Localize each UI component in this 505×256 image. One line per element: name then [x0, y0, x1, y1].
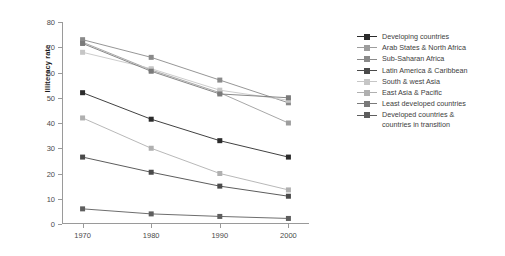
data-point-marker [286, 187, 291, 192]
legend-swatch-icon [357, 88, 377, 98]
data-point-marker [286, 95, 291, 100]
x-tick [288, 224, 289, 228]
data-point-marker [286, 194, 291, 199]
data-point-marker [217, 171, 222, 176]
data-point-marker [80, 50, 85, 55]
series-canvas [62, 22, 309, 224]
legend-label: East Asia & Pacific [382, 88, 442, 98]
legend-item[interactable]: Least developed countries [357, 99, 503, 109]
series-4 [80, 50, 291, 103]
plot-area: 01020304050607080 1970198019902000 [62, 22, 309, 224]
legend-label: South & west Asia [382, 77, 440, 87]
data-point-marker [217, 78, 222, 83]
data-point-marker [217, 184, 222, 189]
y-tick-label: 10 [47, 194, 55, 203]
data-point-marker [217, 138, 222, 143]
data-point-marker [286, 216, 291, 221]
y-tick-label: 60 [47, 68, 55, 77]
y-tick-label: 20 [47, 169, 55, 178]
legend-item[interactable]: South & west Asia [357, 77, 503, 87]
x-tick-label: 1990 [211, 231, 228, 240]
y-tick-label: 70 [47, 43, 55, 52]
series-6 [80, 41, 291, 100]
legend-item[interactable]: Developing countries [357, 32, 503, 42]
y-tick-label: 40 [47, 119, 55, 128]
chart-figure: Illiteracy rate 01020304050607080 197019… [0, 0, 505, 256]
data-point-marker [80, 206, 85, 211]
data-point-marker [149, 117, 154, 122]
legend-label: Latin America & Caribbean [382, 66, 468, 76]
legend-item[interactable]: East Asia & Pacific [357, 88, 503, 98]
data-point-marker [217, 91, 222, 96]
legend-label: Developed countries & countries in trans… [382, 110, 454, 129]
data-point-marker [80, 155, 85, 160]
series-line [83, 43, 289, 97]
legend-swatch-icon [357, 32, 377, 42]
data-point-marker [149, 170, 154, 175]
series-line [83, 52, 289, 100]
series-line [83, 209, 289, 219]
x-tick [83, 224, 84, 228]
legend-label: Arab States & North Africa [382, 43, 466, 53]
x-tick [220, 224, 221, 228]
series-0 [80, 90, 291, 159]
data-point-marker [80, 41, 85, 46]
series-7 [80, 206, 291, 221]
series-line [83, 40, 289, 103]
legend-label: Least developed countries [382, 99, 466, 109]
data-point-marker [286, 155, 291, 160]
x-tick-label: 1970 [74, 231, 91, 240]
series-line [83, 93, 289, 157]
legend-item[interactable]: Latin America & Caribbean [357, 66, 503, 76]
legend-swatch-icon [357, 110, 377, 120]
data-point-marker [149, 69, 154, 74]
y-tick-label: 80 [47, 18, 55, 27]
y-tick-label: 0 [51, 220, 55, 229]
legend-item[interactable]: Developed countries & countries in trans… [357, 110, 503, 129]
legend-swatch-icon [357, 54, 377, 64]
legend-swatch-icon [357, 99, 377, 109]
x-tick-label: 1980 [143, 231, 160, 240]
data-point-marker [80, 115, 85, 120]
legend-label: Sub-Saharan Africa [382, 54, 444, 64]
series-5 [80, 115, 291, 192]
x-tick [151, 224, 152, 228]
data-point-marker [149, 146, 154, 151]
legend-swatch-icon [357, 66, 377, 76]
data-point-marker [217, 214, 222, 219]
y-tick-label: 50 [47, 93, 55, 102]
legend-item[interactable]: Arab States & North Africa [357, 43, 503, 53]
series-line [83, 157, 289, 196]
legend-swatch-icon [357, 77, 377, 87]
series-2 [80, 37, 291, 105]
legend-item[interactable]: Sub-Saharan Africa [357, 54, 503, 64]
x-tick-label: 2000 [280, 231, 297, 240]
legend: Developing countriesArab States & North … [357, 32, 503, 131]
legend-label: Developing countries [382, 32, 449, 42]
data-point-marker [149, 55, 154, 60]
y-tick [58, 224, 62, 225]
data-point-marker [80, 90, 85, 95]
data-point-marker [286, 121, 291, 126]
legend-swatch-icon [357, 43, 377, 53]
y-tick-label: 30 [47, 144, 55, 153]
data-point-marker [149, 211, 154, 216]
